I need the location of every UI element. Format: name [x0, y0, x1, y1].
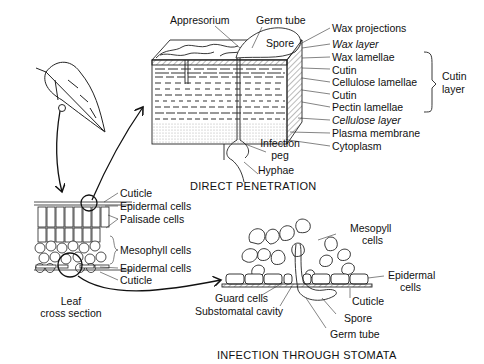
label-mesophyll: Mesophyll cells	[120, 244, 191, 256]
label-wax-projections: Wax projections	[332, 22, 406, 34]
label-cuticle-top: Cuticle	[120, 187, 152, 199]
title-infection-through-stomata: INFECTION THROUGH STOMATA	[217, 349, 397, 361]
label-plasma-membrane: Plasma membrane	[332, 127, 420, 139]
label-guard-cells: Guard cells	[215, 292, 268, 304]
label-mesophyll-1: Mesopyll	[350, 222, 391, 234]
label-epidermal-top: Epidermal cells	[120, 200, 191, 212]
label-cutin-1: Cutin	[332, 64, 357, 76]
label-infection-peg-2: peg	[258, 149, 302, 161]
label-cutin-layer-1: Cutin	[442, 70, 467, 82]
label-cellulose-lamellae: Cellulose lamellae	[332, 76, 417, 88]
label-palisade: Palisade cells	[120, 213, 184, 225]
label-wax-layer: Wax layer	[332, 38, 379, 50]
label-infection-peg-1: Infection	[258, 137, 302, 149]
leaf-cross-section	[34, 202, 132, 273]
leaf-icon	[36, 62, 105, 132]
caption-leaf-2: cross section	[36, 307, 106, 319]
label-epidermal-bottom: Epidermal cells	[120, 262, 191, 274]
label-appresorium: Appresorium	[170, 14, 230, 26]
caption-leaf-1: Leaf	[36, 295, 106, 307]
title-direct-penetration: DIRECT PENETRATION	[190, 180, 317, 192]
label-cutin-2: Cutin	[332, 89, 357, 101]
label-hyphae: Hyphae	[258, 164, 294, 176]
label-epidermal-1: Epidermal	[388, 269, 435, 281]
label-mesophyll-2: cells	[362, 234, 383, 246]
label-substomatal-cavity: Substomatal cavity	[195, 305, 283, 317]
label-wax-lamellae: Wax lamellae	[332, 51, 395, 63]
label-cuticle-bottom: Cuticle	[120, 274, 152, 286]
label-epidermal-2: cells	[400, 281, 421, 293]
diagram-canvas: Appresorium Germ tube Spore Wax projecti…	[0, 0, 484, 364]
cutin-brace	[424, 52, 436, 112]
label-germ-tube: Germ tube	[256, 14, 306, 26]
label-spore: Spore	[266, 37, 294, 49]
label-cuticle: Cuticle	[352, 295, 384, 307]
label-spore: Spore	[344, 312, 372, 324]
label-cutin-layer-2: layer	[442, 83, 465, 95]
label-pectin-lamellae: Pectin lamellae	[332, 101, 403, 113]
label-germ-tube: Germ tube	[330, 328, 380, 340]
label-cellulose-layer: Cellulose layer	[332, 114, 401, 126]
label-cytoplasm: Cytoplasm	[332, 140, 382, 152]
